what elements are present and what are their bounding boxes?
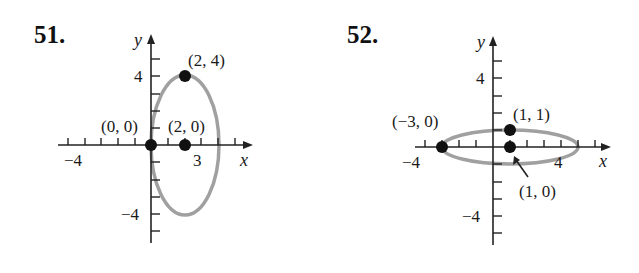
point-label: (1, 0) bbox=[519, 182, 556, 201]
point-1-1 bbox=[504, 124, 516, 136]
pointer-arrow-icon bbox=[513, 156, 528, 177]
y-axis-arrow-icon bbox=[147, 34, 155, 44]
x-axis-arrow-icon bbox=[601, 143, 611, 151]
chart-52: 52. bbox=[320, 0, 639, 273]
point-label: (2, 4) bbox=[188, 51, 225, 70]
x-tick-label: 3 bbox=[193, 151, 202, 170]
point-neg3-0 bbox=[436, 141, 448, 153]
y-axis-label: y bbox=[475, 32, 485, 52]
point-2-0 bbox=[179, 139, 191, 151]
y-axis bbox=[489, 36, 502, 245]
chart-51-plot: −4 3 4 −4 x y (2, 4) (0, 0) (2, 0) bbox=[0, 0, 320, 273]
chart-52-plot: −4 4 4 −4 x y (−3, 0) (1, 1) (1, 0) bbox=[320, 0, 639, 273]
x-tick-label: −4 bbox=[402, 153, 421, 172]
y-tick-label: −4 bbox=[462, 207, 481, 226]
y-tick-label: −4 bbox=[121, 205, 140, 224]
point-label: (0, 0) bbox=[101, 117, 138, 136]
point-1-0 bbox=[504, 141, 516, 153]
x-tick-label: 4 bbox=[554, 153, 563, 172]
y-tick-label: 4 bbox=[134, 67, 143, 86]
y-axis-label: y bbox=[132, 30, 142, 50]
y-axis bbox=[147, 34, 160, 243]
y-tick-label: 4 bbox=[476, 69, 485, 88]
point-2-4 bbox=[179, 70, 191, 82]
x-axis-label: x bbox=[239, 150, 248, 170]
x-axis-label: x bbox=[598, 151, 607, 171]
point-label: (1, 1) bbox=[513, 105, 550, 124]
point-label: (2, 0) bbox=[168, 117, 205, 136]
x-tick-label: −4 bbox=[64, 151, 83, 170]
point-0-0 bbox=[145, 139, 157, 151]
y-axis-arrow-icon bbox=[489, 36, 497, 46]
point-label: (−3, 0) bbox=[392, 112, 438, 131]
x-axis-arrow-icon bbox=[243, 141, 253, 149]
chart-51: 51. bbox=[0, 0, 320, 273]
